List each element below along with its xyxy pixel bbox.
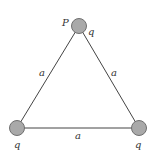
charge-bottom-left — [10, 121, 25, 136]
side-label-bottom: a — [75, 130, 81, 141]
charge-top — [72, 19, 87, 34]
point-label-p: P — [61, 17, 69, 28]
charge-bottom-right — [132, 121, 147, 136]
charge-label-bottom-right: q — [135, 139, 141, 150]
side-label-left: a — [39, 67, 45, 78]
charge-label-bottom-left: q — [14, 139, 20, 150]
triangle-diagram: P q q q a a a — [0, 0, 156, 154]
side-right — [79, 26, 139, 128]
side-left — [17, 26, 79, 128]
side-label-right: a — [111, 67, 117, 78]
charge-label-top: q — [88, 26, 94, 37]
